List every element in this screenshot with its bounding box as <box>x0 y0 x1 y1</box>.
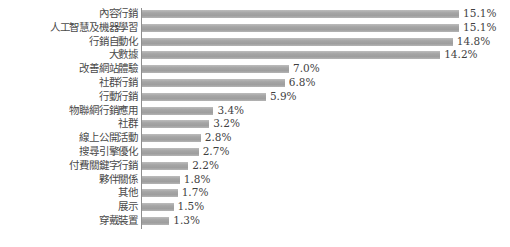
category-label: 物聯網行銷應用 <box>0 104 138 117</box>
bar-row: 付費關鍵字行銷2.2% <box>0 160 510 174</box>
bar <box>142 93 266 101</box>
bar <box>142 65 289 73</box>
category-label: 展示 <box>0 200 138 213</box>
bar-row: 行銷自動化14.8% <box>0 36 510 50</box>
value-label: 14.2% <box>444 48 477 61</box>
category-label: 線上公開活動 <box>0 131 138 144</box>
bar <box>142 38 453 46</box>
bar <box>142 79 285 87</box>
bar-row: 物聯網行銷應用3.4% <box>0 105 510 119</box>
bar-row: 搜尋引擎優化2.7% <box>0 146 510 160</box>
bar <box>142 162 188 170</box>
bar-wrapper <box>142 51 440 59</box>
bar-row: 內容行銷15.1% <box>0 8 510 22</box>
bar-wrapper <box>142 24 459 32</box>
value-label: 2.7% <box>203 145 230 158</box>
bar <box>142 10 459 18</box>
bar-wrapper <box>142 134 201 142</box>
bar-wrapper <box>142 107 213 115</box>
category-label: 其他 <box>0 186 138 199</box>
bar-row: 人工智慧及機器學習15.1% <box>0 22 510 36</box>
bar-wrapper <box>142 10 459 18</box>
bar <box>142 203 174 211</box>
bar <box>142 107 213 115</box>
category-label: 搜尋引擎優化 <box>0 145 138 158</box>
category-label: 改善網站體驗 <box>0 62 138 75</box>
category-label: 付費關鍵字行銷 <box>0 159 138 172</box>
bar <box>142 134 201 142</box>
bar <box>142 24 459 32</box>
bar-wrapper <box>142 79 285 87</box>
bar-rows-container: 內容行銷15.1%人工智慧及機器學習15.1%行銷自動化14.8%大數據14.2… <box>0 8 510 229</box>
bar-row: 大數據14.2% <box>0 49 510 63</box>
plot-area: 內容行銷15.1%人工智慧及機器學習15.1%行銷自動化14.8%大數據14.2… <box>0 0 510 247</box>
bar <box>142 148 199 156</box>
category-label: 社群 <box>0 117 138 130</box>
value-label: 3.4% <box>217 104 244 117</box>
bar-wrapper <box>142 162 188 170</box>
category-label: 行動行銷 <box>0 90 138 103</box>
value-label: 6.8% <box>289 76 316 89</box>
bar <box>142 176 180 184</box>
bar-row: 社群3.2% <box>0 118 510 132</box>
bar-row: 穿戴裝置1.3% <box>0 215 510 229</box>
bar-row: 改善網站體驗7.0% <box>0 63 510 77</box>
value-label: 7.0% <box>293 62 320 75</box>
bar <box>142 189 178 197</box>
value-label: 3.2% <box>213 117 240 130</box>
value-label: 1.3% <box>173 214 200 227</box>
bar-row: 線上公開活動2.8% <box>0 132 510 146</box>
bar-row: 社群行銷6.8% <box>0 77 510 91</box>
bar-wrapper <box>142 65 289 73</box>
bar-wrapper <box>142 148 199 156</box>
bar <box>142 217 169 225</box>
bar-wrapper <box>142 120 209 128</box>
bar-wrapper <box>142 189 178 197</box>
value-label: 1.7% <box>182 186 209 199</box>
category-label: 大數據 <box>0 48 138 61</box>
bar-wrapper <box>142 217 169 225</box>
value-label: 1.5% <box>178 200 205 213</box>
value-label: 15.1% <box>463 7 496 20</box>
value-label: 2.8% <box>205 131 232 144</box>
bar-wrapper <box>142 38 453 46</box>
bar-row: 行動行銷5.9% <box>0 91 510 105</box>
bar-wrapper <box>142 203 174 211</box>
value-label: 14.8% <box>457 35 490 48</box>
bar <box>142 51 440 59</box>
value-label: 5.9% <box>270 90 297 103</box>
category-label: 行銷自動化 <box>0 35 138 48</box>
category-label: 人工智慧及機器學習 <box>0 21 138 34</box>
bar <box>142 120 209 128</box>
bar-wrapper <box>142 93 266 101</box>
category-label: 內容行銷 <box>0 7 138 20</box>
bar-row: 其他1.7% <box>0 187 510 201</box>
category-label: 夥伴關係 <box>0 173 138 186</box>
horizontal-bar-chart: 內容行銷15.1%人工智慧及機器學習15.1%行銷自動化14.8%大數據14.2… <box>0 0 510 247</box>
value-label: 1.8% <box>184 173 211 186</box>
category-label: 社群行銷 <box>0 76 138 89</box>
value-label: 2.2% <box>192 159 219 172</box>
value-label: 15.1% <box>463 21 496 34</box>
bar-wrapper <box>142 176 180 184</box>
bar-row: 展示1.5% <box>0 201 510 215</box>
category-label: 穿戴裝置 <box>0 214 138 227</box>
bar-row: 夥伴關係1.8% <box>0 174 510 188</box>
